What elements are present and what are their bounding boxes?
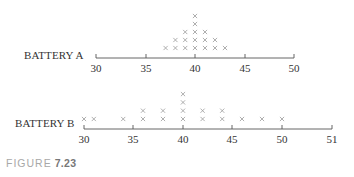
x-marker [280, 117, 284, 121]
x-marker [220, 109, 224, 113]
x-marker [121, 117, 125, 121]
x-marker [181, 92, 185, 96]
x-marker [213, 46, 217, 50]
x-marker [173, 38, 177, 42]
x-tick-label: 45 [227, 133, 239, 145]
x-marker [223, 46, 227, 50]
x-marker [203, 30, 207, 34]
x-marker [193, 22, 197, 26]
x-tick-label: 35 [128, 133, 140, 145]
x-marker [213, 38, 217, 42]
x-tick-label: 40 [190, 62, 202, 74]
x-marker [82, 117, 86, 121]
x-marker [203, 46, 207, 50]
x-marker [164, 46, 168, 50]
x-marker [201, 109, 205, 113]
x-marker [240, 117, 244, 121]
x-tick-label: 30 [79, 133, 91, 145]
x-marker [193, 30, 197, 34]
figure-caption: FIGURE7.23 [6, 157, 76, 169]
x-tick-label: 51 [327, 133, 338, 145]
x-marker [181, 109, 185, 113]
x-tick-label: 45 [240, 62, 252, 74]
x-marker [141, 109, 145, 113]
x-tick-label: 35 [141, 62, 153, 74]
figure-word: FIGURE [6, 157, 52, 169]
x-tick-label: 40 [178, 133, 190, 145]
figure-number: 7.23 [55, 157, 77, 169]
x-marker [173, 46, 177, 50]
x-marker [201, 117, 205, 121]
x-marker [193, 38, 197, 42]
dot-plots: 3035404550303540455051 [0, 0, 354, 177]
x-marker [220, 117, 224, 121]
x-marker [193, 14, 197, 18]
x-tick-label: 30 [91, 62, 103, 74]
x-marker [161, 109, 165, 113]
x-marker [161, 117, 165, 121]
x-marker [183, 38, 187, 42]
x-marker [92, 117, 96, 121]
x-tick-label: 50 [277, 133, 289, 145]
dot-plot-battery-a: 3035404550 [91, 14, 301, 74]
x-marker [203, 38, 207, 42]
x-marker [181, 100, 185, 104]
x-marker [183, 30, 187, 34]
x-marker [193, 46, 197, 50]
dot-plot-battery-b: 303540455051 [79, 92, 338, 145]
x-marker [181, 117, 185, 121]
x-marker [260, 117, 264, 121]
x-marker [141, 117, 145, 121]
x-marker [183, 46, 187, 50]
x-tick-label: 50 [289, 62, 301, 74]
